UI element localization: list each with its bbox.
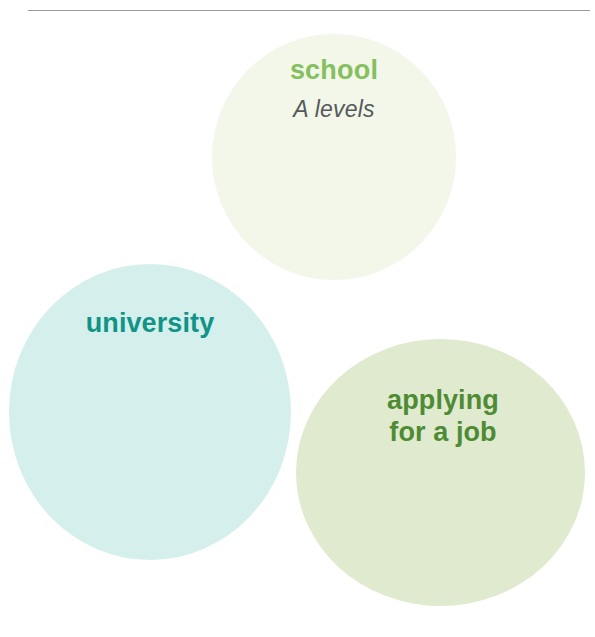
label-school: school xyxy=(212,55,456,87)
label-applying-for-a-job-line-2: for a job xyxy=(318,417,568,449)
diagram-canvas: school A levels university applying for … xyxy=(0,0,595,637)
top-horizontal-rule xyxy=(28,10,590,11)
circle-applying-for-a-job xyxy=(296,339,585,606)
label-a-levels: A levels xyxy=(212,96,456,123)
label-university: university xyxy=(9,308,291,340)
label-applying-for-a-job: applying for a job xyxy=(318,385,568,449)
label-applying-for-a-job-line-1: applying xyxy=(318,385,568,417)
